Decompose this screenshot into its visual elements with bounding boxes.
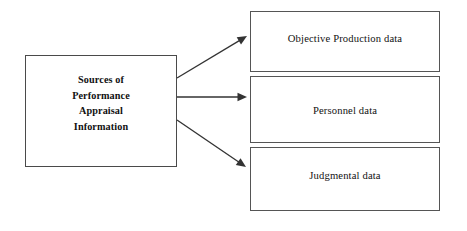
arrow-to-objective-production-data-line bbox=[177, 40, 241, 78]
source-node-label: Sources of Performance Appraisal Informa… bbox=[26, 72, 176, 134]
source-node-line-4: Information bbox=[74, 121, 128, 132]
diagram-canvas: Sources of Performance Appraisal Informa… bbox=[0, 0, 467, 231]
target-node-box-personnel-data[interactable]: Personnel data bbox=[250, 76, 440, 143]
source-node-line-3: Appraisal bbox=[79, 105, 123, 116]
target-node-label-judgmental-data: Judgmental data bbox=[251, 169, 439, 182]
arrow-to-personnel-data-arrowhead bbox=[238, 93, 248, 101]
source-node-line-1: Sources of bbox=[78, 74, 124, 85]
arrow-to-judgmental-data-line bbox=[177, 120, 240, 163]
arrow-to-objective-production-data-arrowhead bbox=[237, 36, 247, 44]
target-node-box-judgmental-data[interactable]: Judgmental data bbox=[250, 147, 440, 211]
source-node-box[interactable]: Sources of Performance Appraisal Informa… bbox=[25, 55, 177, 167]
target-node-box-objective-production-data[interactable]: Objective Production data bbox=[250, 11, 440, 72]
arrow-to-judgmental-data-arrowhead bbox=[236, 158, 246, 167]
target-node-label-personnel-data: Personnel data bbox=[251, 104, 439, 117]
target-node-label-objective-production-data: Objective Production data bbox=[251, 32, 439, 45]
source-node-line-2: Performance bbox=[72, 90, 130, 101]
